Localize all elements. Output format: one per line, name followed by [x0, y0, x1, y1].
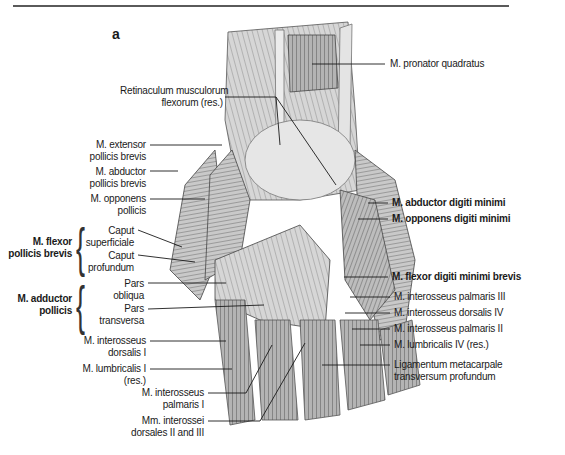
label-po-line2: obliqua — [70, 290, 144, 302]
label-cp-line2: profundum — [70, 262, 134, 274]
label-retinaculum-line1: Retinaculum musculorum — [120, 85, 223, 97]
label-extensor-pollicis-brevis: M. extensor pollicis brevis — [60, 139, 146, 163]
label-interossei-dorsales-2-3: Mm. interossei dorsales II and III — [90, 415, 204, 439]
label-id23-line2: dorsales II and III — [90, 427, 204, 439]
label-id1-line1: M. interosseus — [40, 335, 146, 347]
label-lig-line1: Ligamentum metacarpale — [394, 359, 502, 371]
label-lumbricalis-4: M. lumbricalis IV (res.) — [394, 339, 489, 351]
label-interosseus-palmaris-2: M. interosseus palmaris II — [394, 323, 503, 335]
label-cs-line2: superficiale — [70, 237, 134, 249]
label-pronator-quadratus: M. pronator quadratus — [390, 58, 484, 70]
label-op-line2: pollicis — [60, 205, 146, 217]
label-id23-line1: Mm. interossei — [90, 415, 204, 427]
label-ligamentum-metacarpale: Ligamentum metacarpale transversum profu… — [394, 359, 502, 383]
label-pt-line2: transversa — [70, 315, 144, 327]
label-retinaculum: Retinaculum musculorum flexorum (res.) — [120, 85, 223, 109]
label-op-line1: M. opponens — [60, 193, 146, 205]
label-pt-line1: Pars — [70, 303, 144, 315]
label-ip1-line2: palmaris I — [100, 399, 204, 411]
label-l1-line2: (res.) — [40, 375, 146, 387]
label-id1-line2: dorsalis I — [40, 347, 146, 359]
label-ap-line1: M. adductor — [0, 293, 72, 305]
label-fpb-line2: pollicis brevis — [0, 248, 72, 260]
label-pars-obliqua: Pars obliqua — [70, 278, 144, 302]
label-abductor-pollicis-brevis: M. abductor pollicis brevis — [60, 166, 146, 190]
label-ap-line2: pollicis — [0, 305, 72, 317]
label-cp-line1: Caput — [70, 250, 134, 262]
label-apb-line1: M. abductor — [60, 166, 146, 178]
label-adductor-pollicis-group: M. adductor pollicis — [0, 293, 72, 317]
label-lumbricalis-1: M. lumbricalis I (res.) — [40, 363, 146, 387]
label-abductor-digiti-minimi: M. abductor digiti minimi — [392, 197, 505, 209]
label-epb-line2: pollicis brevis — [60, 151, 146, 163]
label-flexor-pollicis-brevis-group: M. flexor pollicis brevis — [0, 236, 72, 260]
label-interosseus-dorsalis-4: M. interosseus dorsalis IV — [394, 307, 503, 319]
label-fpb-line1: M. flexor — [0, 236, 72, 248]
label-cs-line1: Caput — [70, 225, 134, 237]
label-l1-line1: M. lumbricalis I — [40, 363, 146, 375]
label-lig-line2: transversum profundum — [394, 371, 502, 383]
label-pars-transversa: Pars transversa — [70, 303, 144, 327]
label-retinaculum-line2: flexorum (res.) — [120, 97, 223, 109]
label-interosseus-dorsalis-1: M. interosseus dorsalis I — [40, 335, 146, 359]
label-opponens-digiti-minimi: M. opponens digiti minimi — [392, 213, 510, 225]
label-po-line1: Pars — [70, 278, 144, 290]
label-opponens-pollicis: M. opponens pollicis — [60, 193, 146, 217]
label-interosseus-palmaris-3: M. interosseus palmaris III — [394, 291, 505, 303]
label-flexor-digiti-minimi-brevis: M. flexor digiti minimi brevis — [392, 271, 521, 283]
label-caput-profundum: Caput profundum — [70, 250, 134, 274]
label-ip1-line1: M. interosseus — [100, 387, 204, 399]
label-caput-superficiale: Caput superficiale — [70, 225, 134, 249]
label-interosseus-palmaris-1: M. interosseus palmaris I — [100, 387, 204, 411]
label-epb-line1: M. extensor — [60, 139, 146, 151]
label-apb-line2: pollicis brevis — [60, 178, 146, 190]
